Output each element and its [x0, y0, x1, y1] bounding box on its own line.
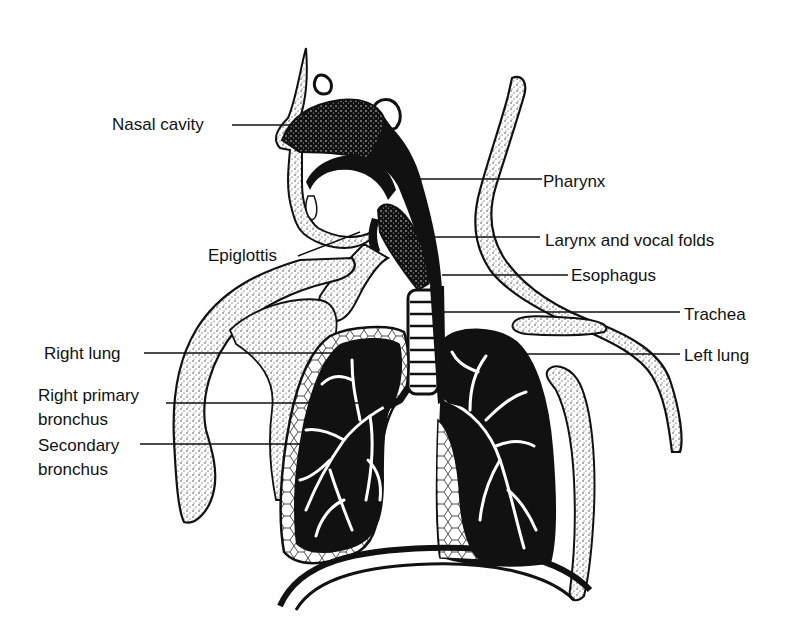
label-right-primary-bronchus: Right primary bronchus	[38, 384, 139, 432]
label-nasal-cavity: Nasal cavity	[112, 115, 204, 135]
label-right-lung: Right lung	[44, 344, 121, 364]
left-lung	[437, 330, 555, 566]
label-esophagus: Esophagus	[571, 266, 656, 286]
label-trachea: Trachea	[684, 305, 746, 325]
clavicle-left	[513, 316, 607, 335]
label-left-lung: Left lung	[684, 346, 749, 366]
label-secondary-bronchus: Secondary bronchus	[38, 434, 119, 482]
label-larynx: Larynx and vocal folds	[545, 231, 714, 251]
label-epiglottis: Epiglottis	[208, 246, 277, 266]
label-pharynx: Pharynx	[543, 172, 605, 192]
